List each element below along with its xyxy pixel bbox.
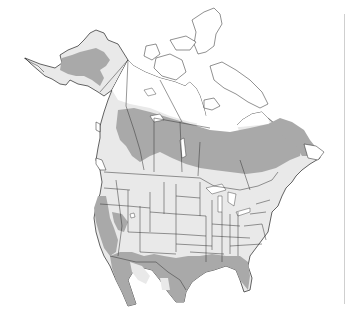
lake-michigan bbox=[218, 196, 222, 212]
baffin-island bbox=[210, 62, 268, 108]
devon-island bbox=[170, 36, 196, 50]
great-salt-lake bbox=[130, 213, 135, 218]
haida-gwaii bbox=[96, 122, 100, 132]
right-frame-divider bbox=[344, 14, 345, 304]
ellesmere-island bbox=[192, 8, 222, 54]
north-america-range-map bbox=[0, 0, 347, 317]
range-south bbox=[110, 252, 250, 306]
southampton-island bbox=[204, 98, 220, 110]
victoria-island bbox=[154, 54, 186, 80]
